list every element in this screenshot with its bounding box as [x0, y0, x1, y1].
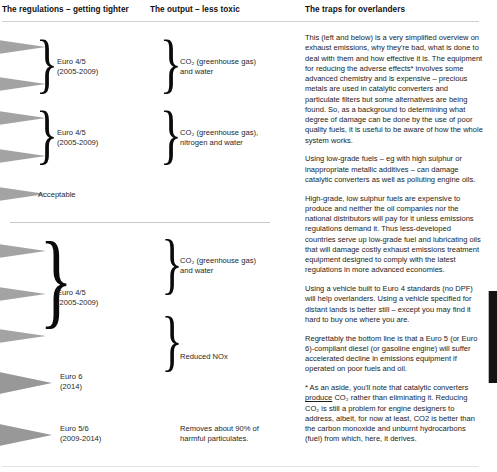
bottom-divider — [2, 466, 479, 467]
header-divider — [2, 21, 479, 22]
section-divider — [10, 222, 270, 223]
label-euro-6: Euro 6 (2014) — [60, 372, 82, 392]
label-euro-45-b: Euro 4/5 (2005-2009) — [57, 128, 98, 148]
brace-icon: } — [160, 32, 182, 97]
column-header-regulations: The regulations – getting tighter — [2, 5, 129, 15]
flow-arrow-icon — [0, 148, 46, 164]
body-paragraph-4: Using a vehicle built to Euro 4 standard… — [305, 284, 483, 325]
body-paragraph-3: High-grade, low sulphur fuels are expens… — [305, 194, 483, 276]
body-paragraph-5: Regrettably the bottom line is that a Eu… — [305, 334, 483, 375]
flow-arrow-icon — [0, 243, 46, 259]
flow-arrow-icon — [0, 370, 52, 396]
footnote-text-pre: * As an aside, you'll note that catalyti… — [305, 383, 468, 392]
label-output-b: CO₂ (greenhouse gas), nitrogen and water — [180, 128, 258, 148]
label-acceptable: Acceptable — [38, 190, 76, 200]
column-header-output: The output – less toxic — [150, 5, 240, 15]
label-output-a: CO₂ (greenhouse gas) and water — [180, 57, 256, 77]
label-euro-56: Euro 5/6 (2009-2014) — [60, 424, 101, 444]
brace-icon: } — [160, 103, 182, 168]
diagram-page: The regulations – getting tighter The ou… — [0, 0, 497, 472]
body-footnote: * As an aside, you'll note that catalyti… — [305, 383, 483, 445]
brace-icon: } — [161, 307, 182, 374]
label-output-particulates: Removes about 90% of harmful particulate… — [180, 424, 259, 444]
flow-arrow-icon — [0, 39, 46, 55]
label-output-c: CO₂ (greenhouse gas) and water — [180, 256, 256, 276]
flow-arrow-icon — [0, 328, 46, 344]
body-paragraph-2: Using low-grade fuels – eg with high sul… — [305, 154, 483, 185]
page-edge-bar — [488, 291, 497, 383]
flow-arrow-icon — [0, 286, 46, 302]
label-euro-45-c: Euro 4/5 (2005-2009) — [57, 288, 98, 308]
body-paragraph-1: This (left and below) is a very simplifi… — [305, 33, 483, 146]
footnote-emphasis: produce — [305, 393, 332, 402]
flow-arrow-icon — [0, 76, 46, 92]
article-body: This (left and below) is a very simplifi… — [305, 33, 483, 445]
column-header-traps: The traps for overlanders — [305, 5, 405, 15]
label-euro-45-a: Euro 4/5 (2005-2009) — [57, 57, 98, 77]
flow-arrow-icon — [0, 422, 52, 448]
flow-arrow-icon — [0, 110, 46, 126]
label-output-nox: Reduced NOx — [180, 352, 228, 362]
